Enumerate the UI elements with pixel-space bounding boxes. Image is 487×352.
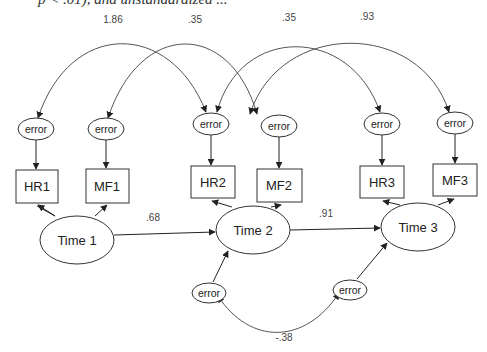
error-node-hr3: error xyxy=(364,113,400,135)
coef-disturbances: -.38 xyxy=(275,332,293,343)
indicator-errors: error error error error error error xyxy=(18,112,473,140)
svg-text:MF2: MF2 xyxy=(266,178,292,193)
covariance-arc-disturbances xyxy=(218,293,339,332)
coef-mf2-mf3: .93 xyxy=(360,11,374,22)
latent-factors: Time 1 Time 2 Time 3 xyxy=(40,203,455,264)
factor-time-3: Time 3 xyxy=(381,203,455,251)
indicator-hr2: HR2 xyxy=(191,166,235,198)
svg-text:error: error xyxy=(95,123,118,135)
svg-text:HR1: HR1 xyxy=(24,179,50,194)
disturbance-time-2: error xyxy=(192,283,226,303)
svg-text:HR3: HR3 xyxy=(369,175,395,190)
covariance-arc-mf1-mf2 xyxy=(108,44,257,118)
disturbance-time-3: error xyxy=(333,280,367,300)
coef-time2-time3: .91 xyxy=(319,208,333,219)
indicator-mf3: MF3 xyxy=(433,164,477,196)
indicator-hr3: HR3 xyxy=(360,166,404,198)
svg-text:error: error xyxy=(339,284,362,296)
coef-mf1-mf2: .35 xyxy=(188,14,202,25)
disturbance-errors: error error xyxy=(192,280,367,303)
indicator-mf2: MF2 xyxy=(257,169,302,202)
error-node-mf3: error xyxy=(437,112,473,134)
svg-text:Time 1: Time 1 xyxy=(57,233,96,248)
coef-hr1-hr2: 1.86 xyxy=(103,14,123,25)
covariance-arc-hr1-hr2 xyxy=(38,44,206,118)
svg-text:Time 2: Time 2 xyxy=(233,223,272,238)
svg-text:error: error xyxy=(371,118,394,130)
svg-text:HR2: HR2 xyxy=(200,175,226,190)
error-node-mf1: error xyxy=(88,118,124,140)
factor-time-1: Time 1 xyxy=(40,216,114,264)
coef-time1-time2: .68 xyxy=(146,212,160,223)
svg-text:MF3: MF3 xyxy=(442,173,468,188)
svg-text:error: error xyxy=(444,117,467,129)
error-node-hr2: error xyxy=(193,113,229,135)
indicator-hr1: HR1 xyxy=(16,170,58,203)
indicator-mf1: MF1 xyxy=(86,169,129,203)
error-node-mf2: error xyxy=(261,115,297,137)
svg-text:error: error xyxy=(200,118,223,130)
coef-hr2-hr3: .35 xyxy=(282,12,296,23)
svg-text:error: error xyxy=(198,287,221,299)
indicators: HR1 MF1 HR2 MF2 HR3 MF3 xyxy=(16,164,477,203)
svg-text:Time 3: Time 3 xyxy=(398,220,437,235)
error-node-hr1: error xyxy=(18,118,54,140)
sem-diagram: error error error error error error HR1 … xyxy=(0,0,487,352)
factor-time-2: Time 2 xyxy=(216,206,290,254)
svg-text:error: error xyxy=(25,123,48,135)
svg-text:MF1: MF1 xyxy=(94,179,120,194)
covariance-arc-mf2-mf3 xyxy=(250,43,449,114)
svg-text:error: error xyxy=(268,120,291,132)
